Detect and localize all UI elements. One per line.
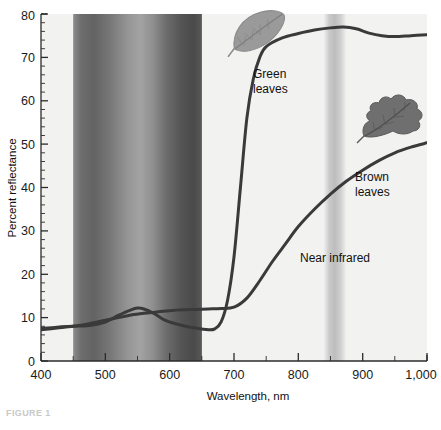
x-tick-label: 600: [159, 368, 180, 382]
annotation-brown-leaves: Brown leaves: [355, 170, 390, 199]
x-tick-label: 400: [31, 368, 52, 382]
figure-container: 0 10 20 30 40 50 60 70 80: [0, 0, 441, 430]
reflectance-chart: 0 10 20 30 40 50 60 70 80: [0, 0, 441, 430]
x-tick-label: 800: [288, 368, 309, 382]
annotation-line: Near infrared: [300, 251, 370, 265]
y-tick-label: 50: [21, 138, 35, 152]
annotation-near-infrared: Near infrared: [300, 251, 370, 265]
x-tick-labels: 400 500 600 700 800 900 1,000: [31, 368, 437, 382]
x-tick-label: 900: [352, 368, 373, 382]
annotation-line: Green: [253, 67, 286, 81]
x-tick-label: 700: [224, 368, 245, 382]
x-axis-title: Wavelength, nm: [207, 390, 290, 402]
annotation-green-leaves: Green leaves: [253, 67, 288, 96]
y-tick-labels: 0 10 20 30 40 50 60 70 80: [21, 9, 35, 369]
annotation-line: Brown: [355, 170, 389, 184]
near-infrared-band: [324, 14, 347, 361]
y-tick-label: 10: [21, 311, 35, 325]
annotation-line: leaves: [253, 82, 288, 96]
y-tick-label: 60: [21, 94, 35, 108]
y-tick-label: 80: [21, 9, 35, 23]
annotation-line: leaves: [355, 185, 390, 199]
x-tick-label: 1,000: [405, 368, 436, 382]
figure-caption: FIGURE 1: [6, 408, 51, 418]
x-tick-label: 500: [95, 368, 116, 382]
y-tick-label: 20: [21, 268, 35, 282]
y-tick-label: 70: [21, 51, 35, 65]
y-tick-label: 40: [21, 181, 35, 195]
y-tick-label: 0: [28, 355, 35, 369]
y-axis-title: Percent reflectance: [6, 138, 18, 237]
y-tick-label: 30: [21, 224, 35, 238]
